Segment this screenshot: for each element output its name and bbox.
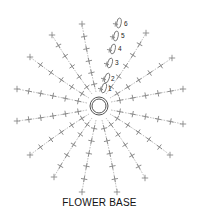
- single-crochet-stitch-icon: [128, 51, 137, 60]
- single-crochet-stitch-icon: [128, 151, 137, 160]
- single-crochet-stitch-icon: [54, 41, 63, 50]
- spoke-right-lower-2: [111, 108, 186, 127]
- single-crochet-stitch-icon: [134, 76, 143, 85]
- single-crochet-stitch-icon: [111, 175, 118, 182]
- single-crochet-stitch-icon: [155, 143, 164, 152]
- spoke-top-left-1: [79, 21, 98, 92]
- single-crochet-stitch-icon: [27, 54, 33, 60]
- single-crochet-stitch-icon: [85, 150, 93, 158]
- single-crochet-stitch-icon: [114, 72, 123, 81]
- single-crochet-stitch-icon: [142, 113, 150, 121]
- single-crochet-stitch-icon: [88, 69, 96, 77]
- chain-number-label: 6: [124, 20, 128, 27]
- chain-stitch-icon: [103, 58, 113, 69]
- single-crochet-stitch-icon: [134, 128, 143, 137]
- single-crochet-stitch-icon: [57, 128, 66, 137]
- single-crochet-stitch-icon: [121, 62, 130, 71]
- single-crochet-stitch-icon: [167, 152, 173, 158]
- single-crochet-stitch-icon: [83, 120, 92, 129]
- single-crochet-stitch-icon: [69, 140, 78, 149]
- single-crochet-stitch-icon: [25, 87, 32, 94]
- single-crochet-stitch-icon: [25, 116, 32, 123]
- single-crochet-stitch-icon: [49, 32, 55, 38]
- single-crochet-stitch-icon: [116, 97, 123, 104]
- single-crochet-stitch-icon: [74, 108, 81, 115]
- single-crochet-stitch-icon: [129, 110, 136, 117]
- single-crochet-stitch-icon: [79, 189, 85, 195]
- single-crochet-stitch-icon: [180, 86, 186, 92]
- single-crochet-stitch-icon: [63, 151, 72, 160]
- single-crochet-stitch-icon: [90, 80, 98, 88]
- chain-number-label: 3: [115, 59, 119, 66]
- single-crochet-stitch-icon: [67, 121, 76, 130]
- single-crochet-stitch-icon: [109, 34, 115, 40]
- single-crochet-stitch-icon: [100, 125, 108, 133]
- single-crochet-stitch-icon: [68, 62, 77, 71]
- single-crochet-stitch-icon: [37, 114, 44, 121]
- single-crochet-stitch-icon: [143, 30, 149, 36]
- single-crochet-stitch-icon: [27, 152, 33, 158]
- single-crochet-stitch-icon: [62, 110, 69, 117]
- single-crochet-stitch-icon: [75, 72, 84, 81]
- chain-number-label: 4: [118, 45, 122, 52]
- single-crochet-stitch-icon: [51, 174, 57, 180]
- single-crochet-stitch-icon: [180, 121, 186, 127]
- single-crochet-stitch-icon: [167, 87, 174, 94]
- single-crochet-stitch-icon: [49, 112, 56, 119]
- crochet-chart: 123456: [0, 0, 199, 214]
- single-crochet-stitch-icon: [114, 130, 123, 139]
- single-crochet-stitch-icon: [134, 162, 143, 171]
- diagram-caption: FLOWER BASE: [0, 197, 199, 208]
- single-crochet-stitch-icon: [142, 92, 149, 99]
- chain-number-label: 2: [111, 75, 115, 82]
- single-crochet-stitch-icon: [156, 61, 165, 70]
- spoke-bottom-right-1: [100, 120, 120, 195]
- single-crochet-stitch-icon: [36, 143, 45, 152]
- single-crochet-stitch-icon: [167, 118, 175, 126]
- single-crochet-stitch-icon: [78, 114, 87, 123]
- single-crochet-stitch-icon: [107, 120, 116, 129]
- single-crochet-stitch-icon: [109, 162, 116, 169]
- chain-number-label: 1: [108, 85, 112, 92]
- single-crochet-stitch-icon: [106, 47, 112, 53]
- single-crochet-stitch-icon: [121, 140, 130, 149]
- single-crochet-stitch-icon: [80, 175, 87, 182]
- single-crochet-stitch-icon: [83, 162, 90, 169]
- single-crochet-stitch-icon: [154, 115, 162, 123]
- single-crochet-stitch-icon: [145, 69, 154, 78]
- single-crochet-stitch-icon: [47, 68, 56, 77]
- single-crochet-stitch-icon: [123, 121, 132, 130]
- single-crochet-stitch-icon: [14, 118, 20, 124]
- single-crochet-stitch-icon: [103, 137, 111, 145]
- single-crochet-stitch-icon: [135, 40, 144, 49]
- single-crochet-stitch-icon: [61, 52, 70, 61]
- spoke-right-upper-1: [111, 86, 186, 104]
- chain-stitch-icon: [97, 83, 107, 94]
- single-crochet-stitch-icon: [79, 21, 85, 27]
- single-crochet-stitch-icon: [14, 86, 20, 92]
- chain-stitch-icon: [113, 18, 122, 29]
- chain-stitch-icon: [106, 44, 116, 55]
- single-crochet-stitch-icon: [106, 150, 114, 158]
- single-crochet-stitch-icon: [103, 61, 109, 67]
- chain-stitch-icon: [100, 73, 110, 84]
- single-crochet-stitch-icon: [83, 45, 90, 52]
- single-crochet-stitch-icon: [56, 162, 65, 171]
- spoke-left-upper-2: [14, 86, 87, 105]
- single-crochet-stitch-icon: [154, 90, 161, 97]
- spoke-bottom-left-2: [79, 120, 98, 195]
- magic-ring-icon: [90, 97, 108, 115]
- single-crochet-stitch-icon: [113, 21, 119, 27]
- single-crochet-stitch-icon: [85, 57, 93, 65]
- single-crochet-stitch-icon: [67, 82, 76, 91]
- spoke-left-lower-1: [14, 108, 87, 124]
- spoke-bottom-left-1: [51, 118, 92, 180]
- single-crochet-stitch-icon: [47, 135, 56, 144]
- single-crochet-stitch-icon: [97, 86, 103, 92]
- spoke-left-upper-1: [27, 54, 89, 98]
- single-crochet-stitch-icon: [62, 95, 70, 103]
- spoke-right-upper-2: [110, 55, 175, 98]
- single-crochet-stitch-icon: [78, 89, 87, 98]
- spoke-bottom-right-2: [106, 118, 148, 181]
- single-crochet-stitch-icon: [88, 137, 96, 145]
